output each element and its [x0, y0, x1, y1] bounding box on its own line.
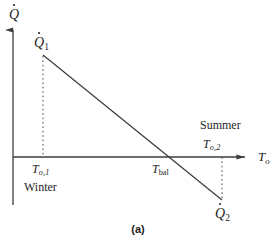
q2-subscript: 2: [225, 213, 230, 223]
y-axis-label-symbol: Q: [9, 8, 19, 22]
q1-subscript: 1: [44, 42, 49, 52]
to1-symbol: T: [32, 162, 39, 176]
point-label-q1: Q1: [34, 36, 49, 50]
q1-symbol: Q: [34, 36, 44, 50]
x-axis-label: To: [258, 150, 270, 163]
tbal-subscript: bal: [159, 168, 169, 177]
tick-label-tbal: Tbal: [152, 163, 169, 175]
to1-subscript: o,1: [39, 168, 50, 177]
figure-panel-a: Q To Q1 Q2 To,1 Winter Tbal To,2 Summer …: [0, 0, 276, 242]
tbal-symbol: T: [152, 162, 159, 176]
scan-edge-artifact: [8, 0, 128, 4]
heat-load-line: [43, 55, 222, 200]
region-label-summer: Summer: [200, 119, 241, 131]
region-label-winter: Winter: [24, 181, 57, 193]
figure-caption: (a): [0, 224, 276, 235]
tick-label-to1: To,1: [32, 163, 49, 175]
to2-subscript: o,2: [210, 143, 221, 152]
tick-label-to2: To,2: [203, 138, 220, 150]
to2-symbol: T: [203, 137, 210, 151]
q2-symbol: Q: [215, 207, 225, 221]
y-axis-label: Q: [9, 8, 19, 22]
point-label-q2: Q2: [215, 207, 230, 221]
x-axis-label-subscript: o: [265, 156, 270, 166]
